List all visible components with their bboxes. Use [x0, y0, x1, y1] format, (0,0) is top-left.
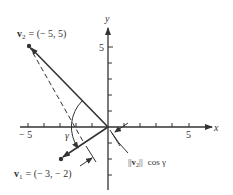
gamma-label: γ — [65, 130, 70, 141]
vector-v2 — [31, 48, 108, 127]
v2-label: v2= (− 5, 5) — [17, 28, 66, 41]
x-tick-label-5: 5 — [186, 129, 191, 140]
x-axis — [20, 123, 212, 127]
vector-v1 — [63, 127, 108, 157]
x-tick-label-neg5: − 5 — [19, 129, 32, 140]
x-axis-label: x — [213, 122, 219, 133]
y-tick-label-5: 5 — [99, 42, 104, 53]
v1-point — [59, 157, 63, 161]
y-axis-label: y — [104, 13, 110, 24]
projection-length-label: ||v2||cos γ — [128, 157, 166, 168]
y-axis — [108, 28, 113, 190]
v1-label: v1= (− 3, − 2) — [14, 168, 72, 181]
vector-projection-diagram: y x 5 5 − 5 v2= (− 5, 5) v1= (− 3, − 2) … — [0, 0, 233, 195]
